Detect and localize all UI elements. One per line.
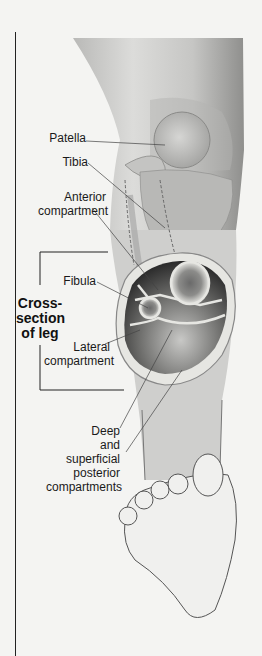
big-toe [193, 454, 223, 496]
toe-2 [135, 491, 153, 509]
toe-1 [119, 507, 137, 525]
label-patella: Patella [48, 131, 86, 145]
label-anterior-compartment: Anterior compartment [38, 190, 106, 218]
label-tibia: Tibia [58, 155, 88, 169]
label-lateral-compartment: Lateral compartment [44, 340, 110, 368]
patella-shape [154, 112, 210, 168]
anatomy-figure: Patella Tibia Anterior compartment Fibul… [0, 0, 262, 656]
tibia-cross-section [171, 262, 209, 304]
toe-4 [168, 474, 188, 494]
label-cross-section: Cross- section of leg [16, 296, 64, 341]
label-fibula: Fibula [62, 274, 96, 288]
fibula-cross-section [140, 298, 160, 318]
toe-3 [151, 481, 169, 499]
label-posterior-compartments: Deep and superficial posterior compartme… [46, 424, 120, 494]
